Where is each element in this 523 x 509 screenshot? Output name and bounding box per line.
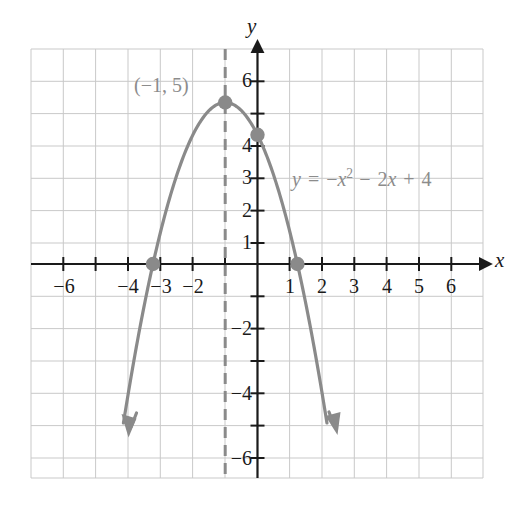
point-y-intercept bbox=[250, 128, 264, 142]
equation-y: y bbox=[292, 168, 301, 190]
x-tick-label-2: 2 bbox=[306, 275, 338, 298]
y-axis-label: y bbox=[247, 14, 256, 39]
y-tick-label-6: 6 bbox=[226, 69, 252, 92]
x-tick-label-3: 3 bbox=[338, 275, 370, 298]
equation-x2: x bbox=[387, 168, 396, 190]
equation-const-4: 4 bbox=[422, 168, 432, 190]
y-tick-label-4: 4 bbox=[226, 134, 252, 157]
y-tick-label-3: 3 bbox=[226, 166, 252, 189]
plot-canvas bbox=[0, 0, 523, 509]
quadratic-graph-figure: −6 −4 −3 −2 1 2 3 4 5 6 6 4 3 2 1 −2 −4 … bbox=[0, 0, 523, 509]
point-right-x-intercept bbox=[290, 257, 304, 271]
vertex-coordinate-label: (−1, 5) bbox=[134, 74, 189, 97]
equation-plus: + bbox=[403, 168, 414, 190]
x-tick-label-4: 4 bbox=[371, 275, 403, 298]
x-tick-label-6: 6 bbox=[435, 275, 467, 298]
y-tick-label-neg2: −2 bbox=[213, 317, 252, 340]
x-tick-label-neg4: −4 bbox=[112, 275, 144, 298]
y-tick-label-1: 1 bbox=[226, 231, 252, 254]
equation-exponent: 2 bbox=[346, 166, 353, 181]
equation-coef-2: 2 bbox=[377, 168, 387, 190]
equation-label: y=−x2−2x+4 bbox=[292, 166, 432, 191]
coordinate-axes bbox=[31, 51, 481, 478]
point-vertex bbox=[218, 95, 232, 109]
equation-minus-1: − bbox=[326, 168, 337, 190]
y-tick-label-neg4: −4 bbox=[213, 382, 252, 405]
equation-minus-2: − bbox=[359, 168, 370, 190]
x-tick-label-neg6: −6 bbox=[48, 275, 80, 298]
curve-arrowheads bbox=[122, 412, 341, 438]
equation-x1: x bbox=[337, 168, 346, 190]
y-tick-label-neg6: −6 bbox=[213, 447, 252, 470]
x-tick-label-5: 5 bbox=[403, 275, 435, 298]
point-left-x-intercept bbox=[146, 257, 160, 271]
x-axis-label: x bbox=[495, 248, 504, 273]
x-tick-label-neg3: −3 bbox=[145, 275, 177, 298]
y-tick-label-2: 2 bbox=[226, 199, 252, 222]
x-tick-label-neg2: −2 bbox=[177, 275, 209, 298]
equation-equals: = bbox=[308, 168, 319, 190]
x-tick-label-1: 1 bbox=[274, 275, 306, 298]
